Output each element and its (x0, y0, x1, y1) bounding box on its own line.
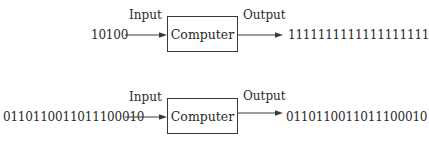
computer-label: Computer (171, 27, 234, 42)
input-arrow-icon (125, 112, 167, 122)
computer-label: Computer (171, 109, 234, 124)
computer-diagram-2: 0110110011011100010 Input Computer Outpu… (0, 82, 425, 142)
output-value: 1111111111111111111 (288, 28, 429, 42)
input-label: Input (129, 90, 162, 104)
output-label: Output (243, 89, 286, 103)
output-arrow-icon (238, 30, 283, 40)
input-value: 10100 (91, 28, 128, 42)
computer-diagram-1: 10100 Input Computer Output 111111111111… (0, 0, 425, 60)
input-value: 0110110011011100010 (3, 110, 144, 124)
output-value: 0110110011011100010 (286, 110, 427, 124)
input-label: Input (129, 8, 162, 22)
input-arrow-icon (125, 30, 167, 40)
computer-box: Computer (167, 98, 238, 134)
computer-box: Computer (167, 16, 238, 52)
output-arrow-icon (238, 108, 283, 118)
output-label: Output (243, 8, 286, 22)
